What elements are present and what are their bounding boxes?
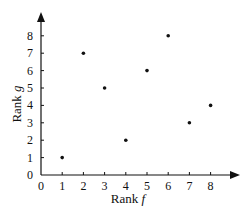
y-tick-label: 2 — [27, 133, 33, 147]
data-point — [124, 138, 128, 142]
x-tick-label: 7 — [186, 179, 192, 193]
y-tick-label: 5 — [27, 81, 33, 95]
axes — [37, 12, 240, 179]
data-point — [209, 104, 213, 108]
scatter-chart: 012345678012345678 Rank f Rank g — [0, 0, 250, 214]
y-tick-label: 8 — [27, 29, 33, 43]
y-tick-label: 1 — [27, 151, 33, 165]
x-axis-arrow-icon — [230, 171, 240, 179]
y-tick-label: 0 — [27, 168, 33, 182]
x-tick-label: 2 — [80, 179, 86, 193]
data-point — [82, 51, 86, 55]
x-tick-label: 6 — [165, 179, 171, 193]
y-tick-label: 6 — [27, 64, 33, 78]
x-tick-label: 8 — [208, 179, 214, 193]
x-tick-label: 0 — [38, 179, 44, 193]
data-point — [60, 156, 64, 160]
data-point — [145, 69, 149, 73]
y-tick-label: 3 — [27, 116, 33, 130]
ticks: 012345678012345678 — [27, 29, 214, 193]
y-tick-label: 4 — [27, 98, 33, 112]
x-tick-label: 1 — [59, 179, 65, 193]
y-axis-arrow-icon — [37, 12, 45, 22]
data-points — [60, 34, 212, 159]
y-tick-label: 7 — [27, 46, 33, 60]
data-point — [166, 34, 170, 38]
data-point — [188, 121, 192, 125]
x-tick-label: 3 — [102, 179, 108, 193]
y-axis-label: Rank g — [9, 85, 24, 123]
x-axis-label: Rank f — [111, 191, 148, 206]
data-point — [103, 86, 107, 90]
